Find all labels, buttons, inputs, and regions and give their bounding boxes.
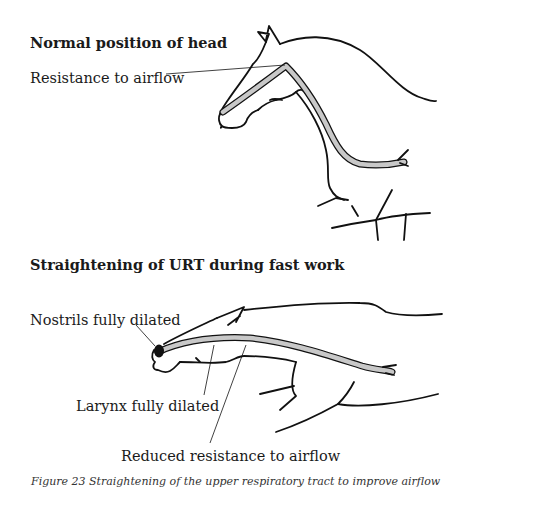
label-reduced-resistance: Reduced resistance to airflow bbox=[121, 449, 340, 464]
horse-head-normal-drawing bbox=[219, 26, 436, 240]
label-resistance-to-airflow: Resistance to airflow bbox=[30, 71, 184, 86]
label-nostrils-fully-dilated: Nostrils fully dilated bbox=[30, 313, 181, 328]
nostril-marker bbox=[154, 345, 164, 358]
leader-line-reduced-resistance bbox=[210, 345, 246, 443]
panel-heading-normal: Normal position of head bbox=[30, 36, 227, 51]
figure-page: Normal position of head Resistance to ai… bbox=[0, 0, 541, 514]
label-larynx-fully-dilated: Larynx fully dilated bbox=[76, 399, 219, 414]
figure-caption: Figure 23 Straightening of the upper res… bbox=[31, 476, 440, 487]
leader-line-larynx bbox=[204, 345, 214, 395]
leader-line-nostrils bbox=[136, 325, 155, 346]
panel-heading-straightened: Straightening of URT during fast work bbox=[30, 258, 344, 273]
